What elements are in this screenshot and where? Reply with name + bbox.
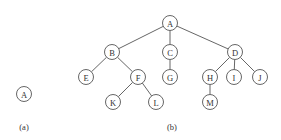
edge-f-l <box>142 83 151 96</box>
edges-layer <box>91 26 254 97</box>
edge-a-d <box>177 26 228 49</box>
captions-layer: (a)(b) <box>19 122 177 132</box>
node-label: L <box>153 98 158 108</box>
edge-a-b <box>119 26 164 48</box>
nodes-layer: AABCDEFGHIJKLM <box>17 16 268 110</box>
tree-node-b-l: L <box>149 95 164 110</box>
node-label: G <box>167 73 173 83</box>
panel-caption-a: (a) <box>19 122 29 132</box>
node-label: D <box>232 48 238 58</box>
tree-node-b-e: E <box>79 70 94 85</box>
panel-caption-b: (b) <box>167 122 177 132</box>
edge-d-j <box>240 57 254 71</box>
edge-b-f <box>117 57 132 72</box>
tree-node-b-j: J <box>253 70 268 85</box>
node-label: K <box>110 98 117 108</box>
node-label: E <box>83 73 88 83</box>
node-label: F <box>136 73 141 83</box>
tree-node-b-d: D <box>228 45 243 60</box>
tree-node-b-c: C <box>163 45 178 60</box>
tree-node-b-f: F <box>131 70 146 85</box>
tree-diagram: AABCDEFGHIJKLM (a)(b) <box>0 0 281 140</box>
node-label: I <box>233 73 236 83</box>
edge-d-h <box>215 57 229 71</box>
tree-node-b-b: B <box>105 45 120 60</box>
tree-node-b-g: G <box>163 70 178 85</box>
node-label: H <box>207 73 213 83</box>
node-label: M <box>206 98 214 108</box>
tree-node-b-m: M <box>203 95 218 110</box>
node-label: C <box>167 48 173 58</box>
edge-f-k <box>118 82 132 96</box>
tree-node-b-a: A <box>163 16 178 31</box>
node-label: A <box>21 90 28 100</box>
node-label: B <box>109 48 115 58</box>
tree-node-b-k: K <box>106 95 121 110</box>
tree-node-b-i: I <box>227 70 242 85</box>
node-label: A <box>167 19 174 29</box>
edge-b-e <box>91 57 106 72</box>
tree-node-b-h: H <box>203 70 218 85</box>
tree-node-a-a: A <box>17 87 32 102</box>
